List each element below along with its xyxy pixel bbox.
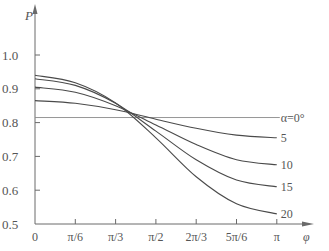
y-ticks: 0.50.60.70.80.91.0: [2, 48, 40, 232]
x-tick-label: π: [274, 230, 280, 244]
chart: P φ 0.50.60.70.80.91.0 0π/6π/3π/22π/35π/…: [0, 0, 329, 251]
series-label: α=0°: [281, 111, 305, 125]
y-tick-label: 0.5: [2, 217, 18, 232]
series-line-alpha-5: [35, 101, 277, 138]
y-tick-label: 0.9: [2, 81, 18, 96]
series-label: 15: [281, 180, 293, 194]
y-tick-label: 0.7: [2, 149, 19, 164]
x-tick-label: 2π/3: [185, 230, 206, 244]
y-axis: P: [24, 4, 38, 224]
y-tick-label: 1.0: [2, 48, 18, 63]
y-axis-label: P: [24, 8, 33, 23]
x-tick-label: π/2: [148, 230, 163, 244]
x-axis-label: φ: [303, 230, 310, 244]
series-line-alpha-10: [35, 87, 277, 165]
x-tick-label: π/6: [68, 230, 83, 244]
series-label: 5: [281, 131, 287, 145]
x-tick-label: 0: [32, 230, 38, 244]
x-ticks: 0π/6π/3π/22π/35π/6π: [32, 219, 280, 244]
series-line-alpha-20: [35, 75, 277, 214]
y-tick-label: 0.6: [2, 183, 19, 198]
y-axis-arrow-icon: [33, 4, 38, 14]
y-tick-label: 0.8: [2, 115, 18, 130]
x-tick-label: π/3: [108, 230, 123, 244]
curves: [35, 75, 280, 214]
series-line-alpha-15: [35, 79, 277, 187]
series-label: 20: [281, 207, 293, 221]
series-labels: α=0°5101520: [281, 111, 305, 221]
x-tick-label: 5π/6: [226, 230, 247, 244]
x-axis-arrow-icon: [302, 222, 314, 227]
series-label: 10: [281, 158, 293, 172]
